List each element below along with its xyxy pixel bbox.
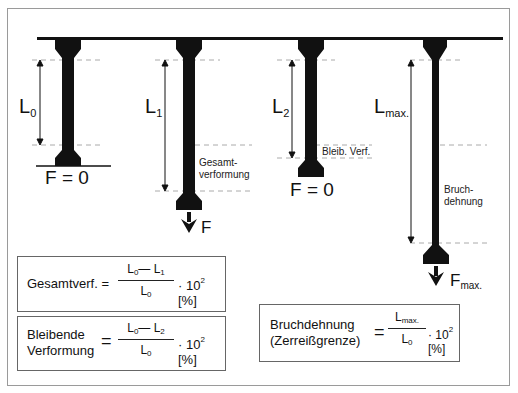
fraction: L0— L2 L0 <box>118 321 174 358</box>
formula-permanent-deformation: BleibendeVerformung = L0— L2 L0 · 102 [%… <box>17 316 226 371</box>
label-L0: L0 <box>19 95 36 119</box>
force-label-1: F = 0 <box>45 167 89 189</box>
formula-total-deformation: Gesamtverf. = L0— L1 L0 · 102 [%] <box>17 256 226 312</box>
specimen-under-load <box>176 40 202 210</box>
force-label-3: F = 0 <box>290 179 334 201</box>
label-L2: L2 <box>272 95 289 119</box>
specimen-at-break <box>423 40 449 264</box>
note-total-deformation: Gesamt-verformung <box>199 157 250 181</box>
top-crossbar <box>37 37 503 40</box>
fraction: Lmax. L0 <box>388 310 426 347</box>
note-elongation-at-break: Bruch-dehnung <box>444 184 483 208</box>
specimen-unloaded <box>298 40 324 177</box>
label-L1: L1 <box>145 95 162 119</box>
formula-elongation-at-break: Bruchdehnung(Zerreißgrenze) = Lmax. L0 ·… <box>259 304 460 362</box>
note-permanent-deformation: Bleib. Verf. <box>322 146 370 158</box>
specimen-original <box>55 40 81 166</box>
force-label-4: Fmax. <box>450 271 482 291</box>
force-label-2: F <box>201 218 211 238</box>
gauge-marks <box>32 60 487 243</box>
label-Lmax: Lmax. <box>374 95 409 119</box>
fraction: L0— L1 L0 <box>118 262 174 299</box>
